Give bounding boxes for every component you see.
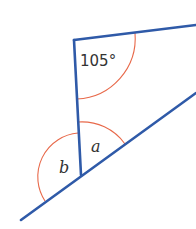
arc-b <box>38 133 78 201</box>
transversal-line <box>21 93 196 220</box>
label-a: a <box>91 137 101 156</box>
label-b: b <box>59 158 69 177</box>
label-105: 105° <box>80 52 116 70</box>
arc-a <box>78 122 125 144</box>
angle-diagram: 105° a b <box>0 0 196 229</box>
